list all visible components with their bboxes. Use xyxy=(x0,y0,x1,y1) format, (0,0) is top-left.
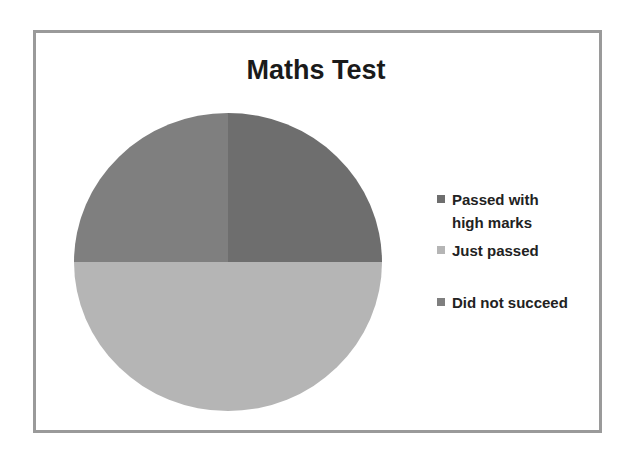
pie-slices xyxy=(74,113,382,411)
pie-slice-just-passed xyxy=(74,262,382,411)
legend-swatch-just-passed xyxy=(437,246,445,254)
legend-label-passed-high-marks: Passed with high marks xyxy=(452,188,562,234)
pie-slice-did-not-succeed xyxy=(74,113,228,262)
legend-label-just-passed: Just passed xyxy=(452,239,602,262)
legend-label-did-not-succeed: Did not succeed xyxy=(452,291,602,314)
legend-swatch-did-not-succeed xyxy=(437,298,445,306)
pie-slice-passed-with-high-marks xyxy=(228,113,382,262)
legend-swatch-passed-high-marks xyxy=(437,195,445,203)
